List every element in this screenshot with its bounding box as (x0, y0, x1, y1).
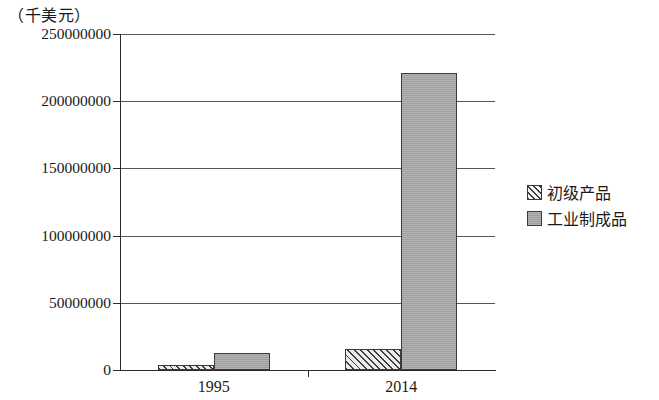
y-tick-label: 200000000 (41, 93, 111, 109)
y-tick-label: 50000000 (49, 295, 111, 311)
chart-legend: 初级产品 工业制成品 (527, 180, 659, 232)
gridline (120, 34, 495, 35)
x-tick-label-2014: 2014 (361, 378, 441, 396)
legend-item-primary-products[interactable]: 初级产品 (527, 180, 659, 204)
bar-1995-manufactured-goods[interactable] (214, 353, 270, 370)
bar-1995-primary-products[interactable] (158, 365, 214, 370)
y-tick-label: 150000000 (41, 160, 111, 176)
bar-chart: （千美元） 0500000001000000001500000002000000… (0, 0, 659, 400)
x-tick-label-1995: 1995 (174, 378, 254, 396)
y-tick-label: 100000000 (41, 228, 111, 244)
chart-unit-label: （千美元） (8, 2, 91, 26)
y-tick-label: 250000000 (41, 26, 111, 42)
legend-label-primary-products: 初级产品 (547, 180, 611, 204)
legend-item-manufactured-goods[interactable]: 工业制成品 (527, 206, 659, 230)
y-axis-line (120, 34, 121, 371)
bar-2014-manufactured-goods[interactable] (401, 73, 457, 370)
legend-label-manufactured-goods: 工业制成品 (547, 206, 627, 230)
legend-swatch-solid-icon (527, 211, 542, 226)
bar-2014-primary-products[interactable] (345, 349, 401, 370)
y-tick-label: 0 (103, 362, 111, 378)
x-category-separator-tick (308, 371, 309, 377)
legend-swatch-hatch-icon (527, 185, 542, 200)
